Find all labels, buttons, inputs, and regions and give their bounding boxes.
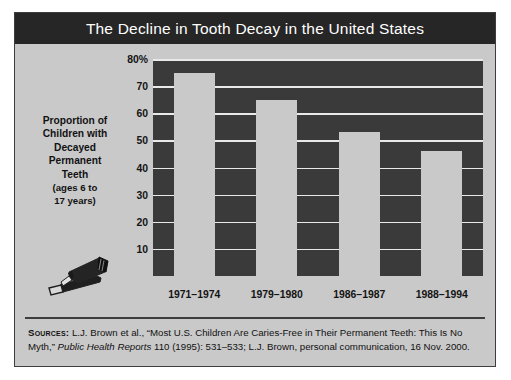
caption-line-0: Proportion of — [21, 114, 129, 127]
caption-line-3: Permanent — [21, 154, 129, 167]
toothpaste-tube-and-toothbrush-icon — [39, 252, 115, 302]
x-axis-tick-label: 1986–1987 — [318, 289, 401, 300]
sources-text-after: 110 (1995): 531–533; L.J. Brown, persona… — [151, 341, 469, 352]
chart-body: Proportion of Children with Decayed Perm… — [15, 44, 495, 367]
y-axis-tick-label: 60 — [136, 108, 148, 119]
y-axis-tick-label: 40 — [136, 162, 148, 173]
y-axis-caption: Proportion of Children with Decayed Perm… — [21, 114, 129, 208]
x-axis-tick-label: 1971–1974 — [153, 289, 236, 300]
caption-sub-line-1: 17 years) — [21, 194, 129, 207]
page-title: The Decline in Tooth Decay in the United… — [86, 20, 424, 38]
y-axis-tick-label: 80% — [127, 54, 148, 65]
caption-line-2: Decayed — [21, 141, 129, 154]
chart-title-bar: The Decline in Tooth Decay in the United… — [15, 13, 495, 44]
sources-divider — [25, 317, 485, 319]
y-axis-tick-label: 30 — [136, 189, 148, 200]
y-axis-tick-label: 70 — [136, 81, 148, 92]
y-axis-tick-label: 50 — [136, 135, 148, 146]
y-axis-tick-label: 10 — [136, 243, 148, 254]
sources-note: Sources: L.J. Brown et al., “Most U.S. C… — [28, 326, 482, 353]
sources-label: Sources: — [28, 327, 69, 338]
y-axis-ticks: 1020304050607080% — [153, 59, 483, 276]
sources-journal-title: Public Health Reports — [58, 341, 152, 352]
figure-panel: The Decline in Tooth Decay in the United… — [14, 12, 496, 367]
caption-line-1: Children with — [21, 127, 129, 140]
x-axis-tick-label: 1988–1994 — [401, 289, 484, 300]
x-axis-ticks: 1971–19741979–19801986–19871988–1994 — [153, 280, 483, 300]
caption-sub-line-0: (ages 6 to — [21, 181, 129, 194]
bar-chart: 1020304050607080% 1971–19741979–19801986… — [131, 59, 483, 304]
caption-line-4: Teeth — [21, 168, 129, 181]
x-axis-tick-label: 1979–1980 — [236, 289, 319, 300]
y-axis-tick-label: 20 — [136, 216, 148, 227]
